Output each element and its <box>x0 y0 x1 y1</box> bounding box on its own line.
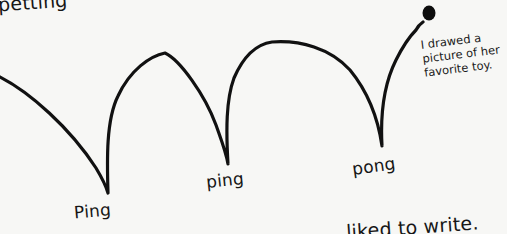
illustration-page: petting Ping ping pong I drawed a pictur… <box>0 0 507 234</box>
bounce-label-second: ping <box>205 168 245 192</box>
ball-dot <box>423 6 436 21</box>
bouncing-ball-drawing <box>0 0 507 234</box>
bounce-label-first: Ping <box>73 199 112 222</box>
